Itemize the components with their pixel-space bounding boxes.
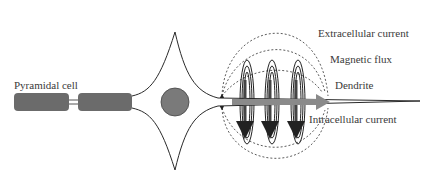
label-extracellular-current: Extracellular current bbox=[318, 28, 409, 39]
axon-segment-2 bbox=[78, 93, 132, 111]
label-intracellular-current: Intracellular current bbox=[309, 114, 397, 125]
intracellular-current-arrow bbox=[232, 94, 330, 110]
nucleus bbox=[161, 88, 189, 116]
label-magnetic-flux: Magnetic flux bbox=[330, 54, 392, 65]
axon bbox=[14, 93, 132, 111]
label-dendrite: Dendrite bbox=[335, 80, 373, 91]
axon-segment-1 bbox=[14, 93, 69, 111]
label-pyramidal-cell: Pyramidal cell bbox=[14, 80, 78, 91]
